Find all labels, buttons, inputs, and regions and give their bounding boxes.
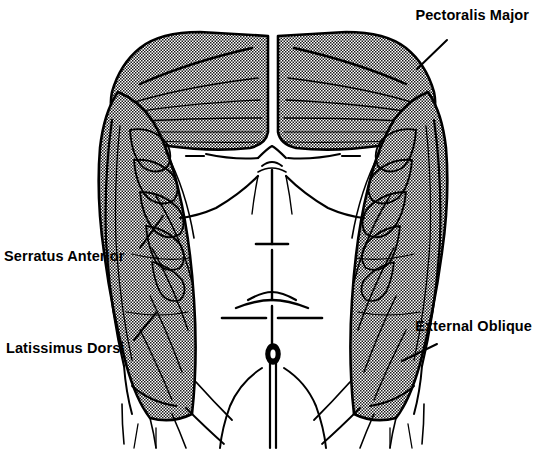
- label-latissimus-dorsi: Latissimus Dorsi: [6, 341, 124, 356]
- label-serratus-anterior: Serratus Anterior: [4, 249, 124, 264]
- label-external-oblique: External Oblique: [415, 319, 532, 334]
- structure-umbilicus: [266, 344, 280, 364]
- anatomy-figure: g: [0, 0, 541, 458]
- region-abdomen-center: [180, 146, 364, 448]
- anatomy-illustration: [0, 0, 541, 458]
- label-pectoralis-major: Pectoralis Major: [415, 8, 529, 23]
- structure-linea-alba: [270, 170, 276, 448]
- leader-pectoralis-major: [417, 40, 447, 69]
